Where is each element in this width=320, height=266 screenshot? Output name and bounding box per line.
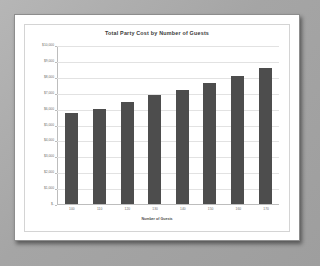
x-axis-tick-label: 100 (58, 208, 86, 211)
bar-slot (141, 46, 169, 204)
bar[interactable] (203, 83, 216, 204)
y-axis-tick-mark (55, 46, 57, 47)
y-axis-tick-mark (55, 205, 57, 206)
x-axis-title: Number of Guests (25, 217, 289, 221)
y-axis-tick-label: $7,000 (44, 92, 54, 95)
bar[interactable] (65, 113, 78, 204)
chart-paper: Total Party Cost by Number of Guests $10… (14, 14, 300, 241)
y-axis-tick-mark (55, 157, 57, 158)
y-axis-tick-label: $5,000 (44, 124, 54, 127)
bar[interactable] (93, 109, 106, 204)
bar[interactable] (148, 95, 161, 204)
bar-slot (58, 46, 86, 204)
x-axis-line (57, 204, 279, 205)
y-axis-tick-mark (55, 62, 57, 63)
x-axis-tick-label: 110 (86, 208, 114, 211)
y-axis-tick-mark (55, 78, 57, 79)
x-axis-tick-label: 140 (169, 208, 197, 211)
y-axis-tick-label: $1,000 (44, 187, 54, 190)
bar-slot (113, 46, 141, 204)
x-axis-tick-label: 160 (225, 208, 253, 211)
y-axis-tick-label: $9,000 (44, 60, 54, 63)
chart-frame: Total Party Cost by Number of Guests $10… (24, 24, 290, 232)
y-axis-tick-mark (55, 94, 57, 95)
bar-slot (251, 46, 279, 204)
y-axis-tick-label: $4,000 (44, 140, 54, 143)
bar-slot (224, 46, 252, 204)
x-axis-tick-label: 150 (197, 208, 225, 211)
bar[interactable] (176, 90, 189, 204)
chart-title: Total Party Cost by Number of Guests (25, 30, 289, 36)
bar-slot (86, 46, 114, 204)
x-axis-tick-label: 170 (252, 208, 280, 211)
x-axis-tick-label: 120 (114, 208, 142, 211)
y-axis-tick-label: $2,000 (44, 172, 54, 175)
bar[interactable] (231, 76, 244, 204)
bar[interactable] (121, 102, 134, 204)
bar[interactable] (259, 68, 272, 204)
y-axis-tick-mark (55, 189, 57, 190)
plot-area: $10,000$9,000$8,000$7,000$6,000$5,000$4,… (57, 46, 279, 205)
y-axis-tick-label: $- (51, 203, 54, 206)
y-axis-tick-mark (55, 141, 57, 142)
x-axis-tick-labels: 100110120130140150160170 (58, 208, 280, 211)
y-axis-tick-label: $10,000 (42, 44, 54, 47)
y-axis-tick-mark (55, 110, 57, 111)
y-axis-tick-mark (55, 173, 57, 174)
bar-slot (196, 46, 224, 204)
y-axis-tick-label: $8,000 (44, 76, 54, 79)
bar-slot (169, 46, 197, 204)
x-axis-tick-label: 130 (141, 208, 169, 211)
bar-series (58, 46, 279, 204)
y-axis-tick-label: $6,000 (44, 108, 54, 111)
y-axis-tick-mark (55, 126, 57, 127)
y-axis-tick-label: $3,000 (44, 156, 54, 159)
